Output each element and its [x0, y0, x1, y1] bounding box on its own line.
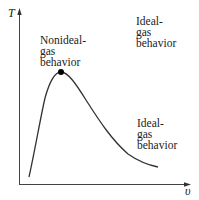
y-axis-label: T — [8, 6, 15, 21]
ideal-gas-right-label: Ideal- gas behavior — [137, 118, 177, 151]
y-axis-arrow-icon — [17, 8, 21, 15]
critical-point-dot — [58, 69, 64, 75]
x-axis-label: υ — [185, 184, 191, 199]
ideal-gas-top-label: Ideal- gas behavior — [136, 16, 176, 49]
t-v-diagram: T υ Nonideal- gas behavior Ideal- gas be… — [0, 0, 199, 200]
nonideal-gas-label: Nonideal- gas behavior — [40, 35, 86, 68]
